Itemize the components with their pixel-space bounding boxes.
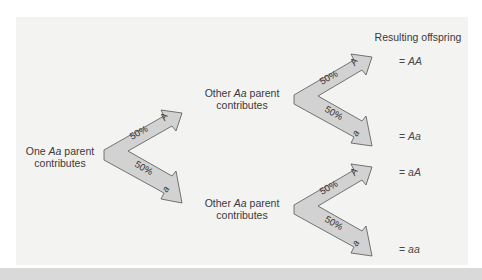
offspring-aa-dominant: = AA — [399, 55, 422, 67]
parent-other-top-line2: contributes — [216, 99, 267, 111]
parent-other-bottom-line2: contributes — [216, 209, 267, 221]
offspring-genotype: aa — [408, 243, 420, 255]
offspring-aa-recessive: = aa — [399, 243, 420, 255]
offspring-genotype: aA — [408, 166, 421, 178]
branch-chevron-2: 50% A 50% a — [294, 54, 372, 146]
offspring-genotype: Aa — [408, 130, 421, 142]
parent-one-suffix: parent — [61, 145, 94, 157]
parent-other-top-prefix: Other — [205, 87, 234, 99]
parent-other-bottom-prefix: Other — [205, 197, 234, 209]
parent-one-prefix: One — [26, 145, 49, 157]
parent-other-top-suffix: parent — [247, 87, 280, 99]
offspring-eq: = — [399, 166, 408, 178]
offspring-eq: = — [399, 55, 408, 67]
offspring-aa-hetero-1: = Aa — [399, 130, 421, 142]
offspring-aa-hetero-2: = aA — [399, 166, 421, 178]
offspring-eq: = — [399, 130, 408, 142]
branch-chevron-3: 50% A 50% a — [294, 164, 372, 256]
offspring-eq: = — [399, 243, 408, 255]
parent-other-top-label: Other Aa parent contributes — [196, 87, 288, 111]
resulting-offspring-title: Resulting offspring — [368, 31, 468, 43]
parent-one-label: One Aa parent contributes — [16, 145, 104, 169]
parent-other-bottom-suffix: parent — [247, 197, 280, 209]
parent-one-genotype: Aa — [49, 145, 62, 157]
offspring-genotype: AA — [408, 55, 422, 67]
parent-one-line2: contributes — [34, 157, 85, 169]
branch-chevron-1: 50% A 50% a — [104, 110, 182, 203]
parent-other-bottom-genotype: Aa — [234, 197, 247, 209]
parent-other-top-genotype: Aa — [234, 87, 247, 99]
parent-other-bottom-label: Other Aa parent contributes — [196, 197, 288, 221]
